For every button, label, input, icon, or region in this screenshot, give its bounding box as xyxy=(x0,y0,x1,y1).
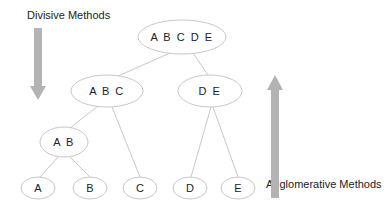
edge-root-de xyxy=(193,53,208,75)
node-c: C xyxy=(123,177,157,199)
node-label: A B xyxy=(53,136,75,148)
edge-de-e xyxy=(213,107,238,177)
node-label: D E xyxy=(199,85,222,97)
edge-root-abc xyxy=(118,53,170,76)
node-abcde: A B C D E xyxy=(138,20,226,54)
hierarchical-clustering-diagram: Divisive Methods Agglomerative Methods A… xyxy=(0,0,388,211)
agglomerative-methods-caption: Agglomerative Methods xyxy=(266,178,382,190)
node-d: D xyxy=(173,177,207,199)
node-a: A xyxy=(21,177,55,199)
node-label: A B C xyxy=(89,85,125,97)
node-e: E xyxy=(221,177,255,199)
node-label: D xyxy=(186,182,194,194)
edge-de-d xyxy=(191,107,211,177)
node-label: A B C D E xyxy=(150,31,213,43)
edge-abc-c xyxy=(112,107,140,177)
edge-abc-ab xyxy=(70,106,98,128)
node-b: B xyxy=(73,177,107,199)
node-label: E xyxy=(234,182,241,194)
down-arrow-icon xyxy=(30,28,46,100)
tree-edges xyxy=(40,53,238,177)
node-abc: A B C xyxy=(71,75,143,107)
node-label: B xyxy=(86,182,93,194)
edge-ab-b xyxy=(70,157,90,177)
node-de: D E xyxy=(178,75,242,107)
node-label: A xyxy=(34,182,42,194)
edge-ab-a xyxy=(40,157,58,177)
node-label: C xyxy=(136,182,144,194)
divisive-methods-caption: Divisive Methods xyxy=(27,9,111,21)
node-ab: A B xyxy=(40,127,88,157)
